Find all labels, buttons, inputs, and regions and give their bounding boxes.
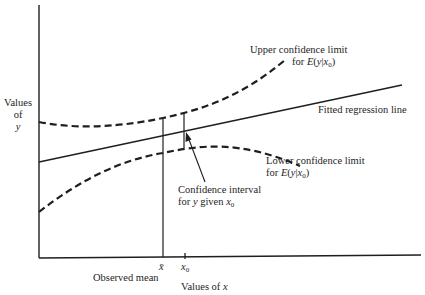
ci-arrow-shaft	[188, 137, 205, 182]
lower-confidence-label: Lower confidence limit for E(y|x0)	[266, 155, 365, 179]
upper-for: for	[292, 56, 307, 67]
x0-tick-label: x0	[181, 261, 189, 273]
upper-label-line2: for E(y|x0)	[250, 56, 347, 68]
xbar-tick-label: x̄	[159, 261, 164, 273]
ci-given: given	[198, 196, 227, 207]
ci-for: for	[178, 196, 193, 207]
y-axis-label-line1: Values	[3, 97, 33, 109]
fitted-line-label: Fitted regression line	[318, 104, 407, 116]
upper-label-line1: Upper confidence limit	[250, 44, 347, 56]
x-axis-label: Values of x	[181, 281, 228, 293]
upper-confidence-label: Upper confidence limit for E(y|x0)	[250, 44, 347, 68]
regression-diagram	[0, 0, 425, 295]
x-axis-label-text: Values of	[181, 281, 223, 292]
ci-label-line1: Confidence interval	[178, 184, 261, 196]
lower-label-line1: Lower confidence limit	[266, 155, 365, 167]
ci-label-line2: for y given x0	[178, 196, 261, 208]
y-axis-label-line2: of	[3, 109, 33, 121]
lower-label-line2: for E(y|x0)	[266, 167, 365, 179]
upper-close: )	[332, 56, 336, 67]
y-axis-label-var: y	[3, 121, 33, 133]
lower-close: )	[306, 167, 310, 178]
confidence-interval-label: Confidence interval for y given x0	[178, 184, 261, 208]
x-axis	[39, 255, 421, 258]
ci-arrow-head	[186, 132, 192, 142]
fitted-regression-line	[39, 85, 402, 162]
y-axis-label: Values of y	[3, 97, 33, 133]
lower-for: for	[266, 167, 281, 178]
ci-sub: 0	[231, 201, 235, 209]
observed-mean-label: Observed mean	[93, 272, 159, 284]
x-axis-label-var: x	[223, 281, 228, 292]
upper-confidence-curve	[39, 60, 285, 126]
x0-sub: 0	[186, 266, 190, 274]
